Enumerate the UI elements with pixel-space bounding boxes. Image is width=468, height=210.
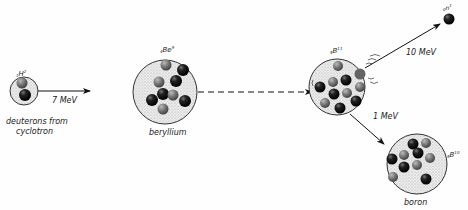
nuclear-reaction-diagram: 1H2 7 MeV deuterons from cyclotron 4Be9 … xyxy=(0,0,468,210)
svg-text:5B11: 5B11 xyxy=(330,46,342,55)
beryllium-nucleus xyxy=(133,60,197,125)
boron-caption: boron xyxy=(404,198,427,207)
emitted-neutron xyxy=(444,14,455,25)
deuteron-nucleus xyxy=(10,77,38,105)
deuteron-energy-label: 7 MeV xyxy=(52,96,77,105)
deuteron-caption-1: deuterons from xyxy=(6,117,68,126)
deuteron-caption-2: cyclotron xyxy=(16,127,53,136)
svg-text:4Be9: 4Be9 xyxy=(160,45,175,54)
svg-text:5B10: 5B10 xyxy=(447,150,460,159)
boron-nucleus xyxy=(387,134,448,194)
neutron-energy-label: 10 MeV xyxy=(406,48,437,57)
neutron-arrow xyxy=(365,24,440,68)
compound-nucleus xyxy=(309,59,366,115)
beryllium-caption: beryllium xyxy=(149,128,187,137)
boron-energy-label: 1 MeV xyxy=(373,112,398,121)
beryllium-symbol: Be xyxy=(163,46,172,54)
svg-text:0n1: 0n1 xyxy=(443,3,452,12)
